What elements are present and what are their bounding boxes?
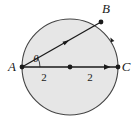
figure-canvas: A B C θ 2 2 bbox=[0, 0, 137, 127]
label-length-right: 2 bbox=[87, 71, 93, 83]
point-a-dot bbox=[20, 65, 25, 70]
point-center-dot bbox=[68, 65, 73, 70]
label-point-c: C bbox=[122, 59, 131, 74]
label-length-left: 2 bbox=[41, 71, 47, 83]
label-angle-theta: θ bbox=[33, 52, 39, 64]
arc-tick-icon bbox=[110, 38, 114, 43]
point-b-dot bbox=[99, 20, 104, 25]
label-point-b: B bbox=[102, 1, 110, 16]
geometry-figure: A B C θ 2 2 bbox=[0, 0, 137, 127]
point-c-dot bbox=[116, 65, 121, 70]
label-point-a: A bbox=[7, 59, 16, 74]
